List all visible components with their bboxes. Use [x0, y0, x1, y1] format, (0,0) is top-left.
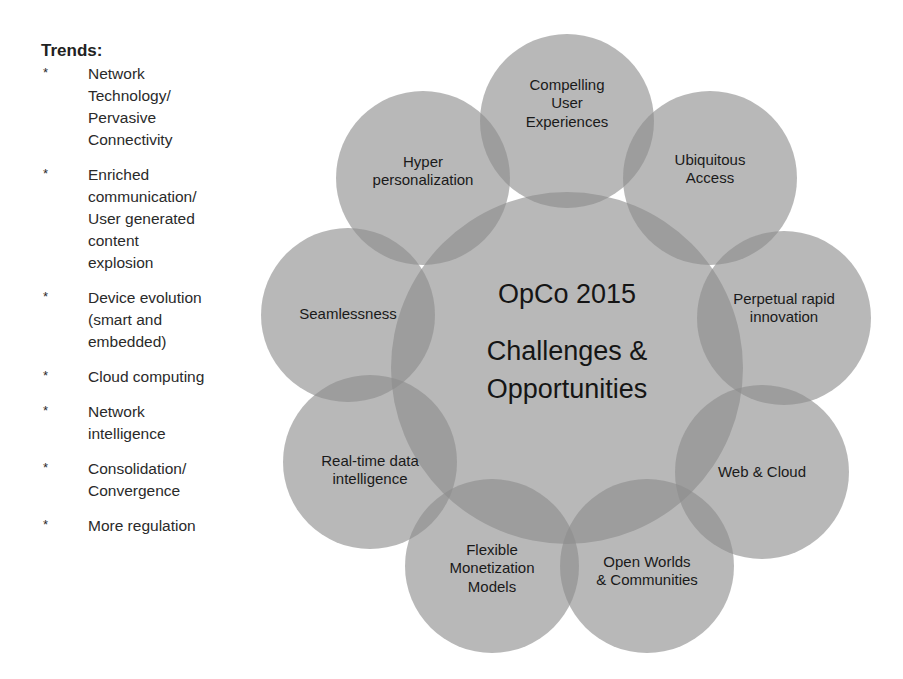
label-web-cloud: Web & Cloud — [718, 463, 806, 480]
label-real-time-data-intelligence: Real-time dataintelligence — [321, 452, 419, 487]
label-open-worlds-communities: Open Worlds& Communities — [596, 553, 698, 588]
center-title: OpCo 2015Challenges &Opportunities — [487, 279, 648, 404]
label-seamlessness: Seamlessness — [299, 305, 397, 322]
opco-venn-diagram: CompellingUserExperiencesUbiquitousAcces… — [0, 0, 903, 679]
